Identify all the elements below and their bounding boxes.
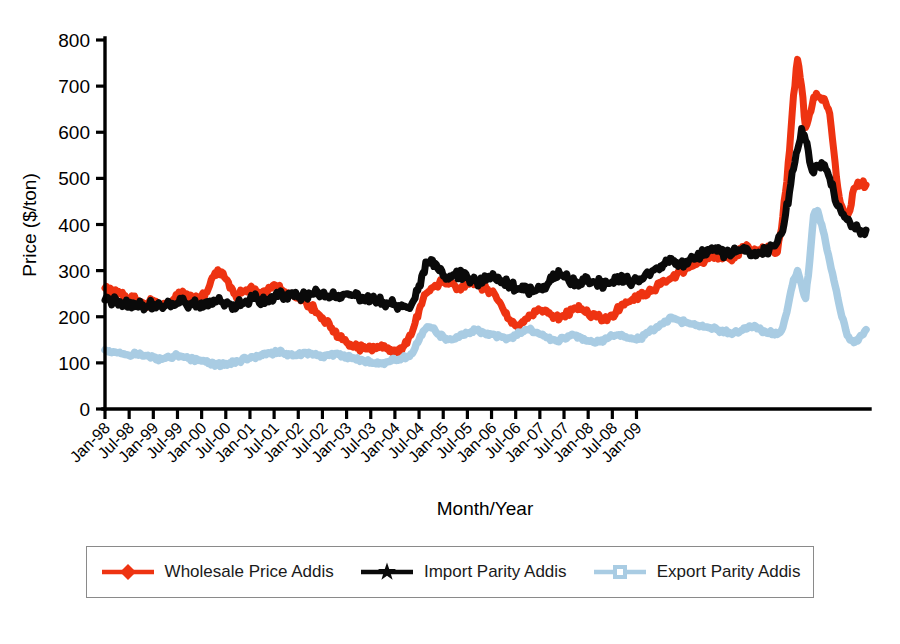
- y-tick-label: 500: [58, 168, 90, 189]
- legend-item-export-parity-addis[interactable]: Export Parity Addis: [592, 562, 801, 582]
- plot-area: [105, 59, 866, 366]
- series-line-wholesale-price-addis: [105, 59, 866, 352]
- x-axis-title: Month/Year: [437, 498, 534, 519]
- y-tick-label: 200: [58, 307, 90, 328]
- y-tick-label: 800: [58, 30, 90, 51]
- legend-label: Import Parity Addis: [424, 562, 567, 582]
- chart-legend: Wholesale Price AddisImport Parity Addis…: [86, 546, 814, 598]
- legend-marker-square-icon: [592, 562, 648, 582]
- y-tick-label: 100: [58, 353, 90, 374]
- y-tick-label: 700: [58, 76, 90, 97]
- y-tick-label: 300: [58, 261, 90, 282]
- y-tick-label: 600: [58, 122, 90, 143]
- chart-figure: 0100200300400500600700800Jan-98Jul-98Jan…: [0, 0, 900, 644]
- y-tick-label: 0: [79, 399, 90, 420]
- series-line-import-parity-addis: [105, 129, 866, 310]
- legend-item-import-parity-addis[interactable]: Import Parity Addis: [359, 562, 567, 582]
- legend-item-wholesale-price-addis[interactable]: Wholesale Price Addis: [100, 562, 334, 582]
- legend-marker-star-icon: [359, 562, 415, 582]
- y-axis-title: Price ($/ton): [19, 173, 40, 276]
- legend-label: Wholesale Price Addis: [165, 562, 334, 582]
- y-tick-label: 400: [58, 215, 90, 236]
- legend-marker-diamond-icon: [100, 562, 156, 582]
- legend-label: Export Parity Addis: [657, 562, 801, 582]
